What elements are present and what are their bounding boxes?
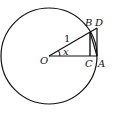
unit-circle-diagram: O x 1 B D C A xyxy=(0,0,113,118)
label-radius: 1 xyxy=(64,33,70,44)
label-C: C xyxy=(85,58,93,69)
label-A: A xyxy=(97,58,105,69)
label-angle-x: x xyxy=(63,46,69,57)
label-D: D xyxy=(94,17,103,28)
label-O: O xyxy=(40,55,48,66)
label-B: B xyxy=(84,17,92,28)
angle-arc xyxy=(59,51,61,57)
